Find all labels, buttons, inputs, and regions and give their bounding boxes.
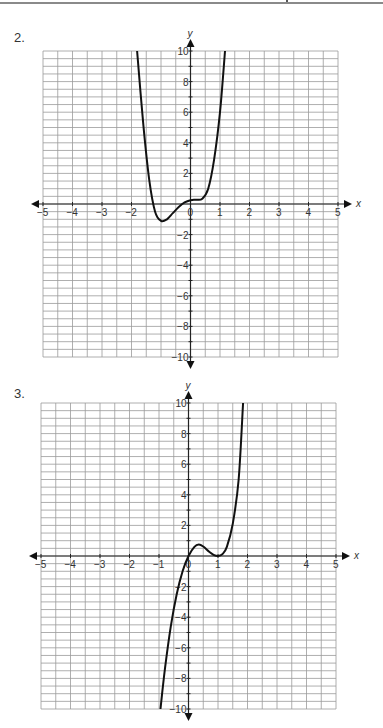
x-tick-label: 5	[335, 207, 341, 218]
x-tick-label: −4	[65, 559, 77, 570]
x-axis-label: x	[355, 198, 362, 209]
y-axis-label: y	[185, 380, 192, 391]
axes	[33, 41, 350, 367]
x-tick-label: 2	[247, 207, 253, 218]
y-tick-label: −4	[177, 260, 189, 271]
y-tick-label: 10	[177, 46, 189, 57]
y-tick-label: −6	[175, 643, 187, 654]
function-curve	[137, 51, 225, 221]
x-axis-label: x	[353, 550, 360, 561]
x-tick-label: −2	[124, 559, 136, 570]
y-tick-label: 10	[175, 398, 187, 409]
y-tick-label: −8	[177, 321, 189, 332]
x-tick-label: −5	[37, 207, 49, 218]
y-tick-label: 2	[183, 168, 189, 179]
y-tick-label: 4	[183, 138, 189, 149]
y-tick-label: −2	[177, 230, 189, 241]
x-tick-label: −1	[153, 559, 165, 570]
x-tick-label: −4	[67, 207, 79, 218]
x-tick-label: −3	[96, 207, 108, 218]
y-tick-label: −4	[175, 612, 187, 623]
y-tick-label: 8	[183, 77, 189, 88]
x-tick-label: 1	[217, 207, 223, 218]
x-tick-label: −2	[126, 207, 138, 218]
x-tick-label: 5	[333, 559, 339, 570]
x-tick-label: 1	[215, 559, 221, 570]
y-tick-label: 8	[181, 429, 187, 440]
y-tick-label: 6	[183, 107, 189, 118]
x-tick-label: 3	[274, 559, 280, 570]
graph-problem-2: −5−4−3−2012345108642−2−4−6−8−10xy	[0, 0, 383, 372]
x-axis-right-arrow-icon	[344, 200, 352, 208]
x-tick-label: 4	[306, 207, 312, 218]
x-tick-label: −3	[94, 559, 106, 570]
y-tick-label: −6	[177, 291, 189, 302]
x-tick-label: 4	[304, 559, 310, 570]
y-tick-label: −10	[170, 704, 187, 715]
x-tick-label: −5	[35, 559, 47, 570]
x-tick-label: 0	[188, 207, 194, 218]
y-tick-label: 4	[181, 490, 187, 501]
x-axis-right-arrow-icon	[342, 552, 350, 560]
graph-problem-3: −5−4−3−2−1012345108642−2−4−6−8−10xy	[0, 360, 383, 728]
x-tick-label: 3	[276, 207, 282, 218]
y-tick-label: 6	[181, 459, 187, 470]
x-tick-label: 2	[245, 559, 251, 570]
y-tick-label: 2	[181, 520, 187, 531]
y-tick-label: −8	[175, 673, 187, 684]
y-axis-label: y	[187, 28, 194, 39]
